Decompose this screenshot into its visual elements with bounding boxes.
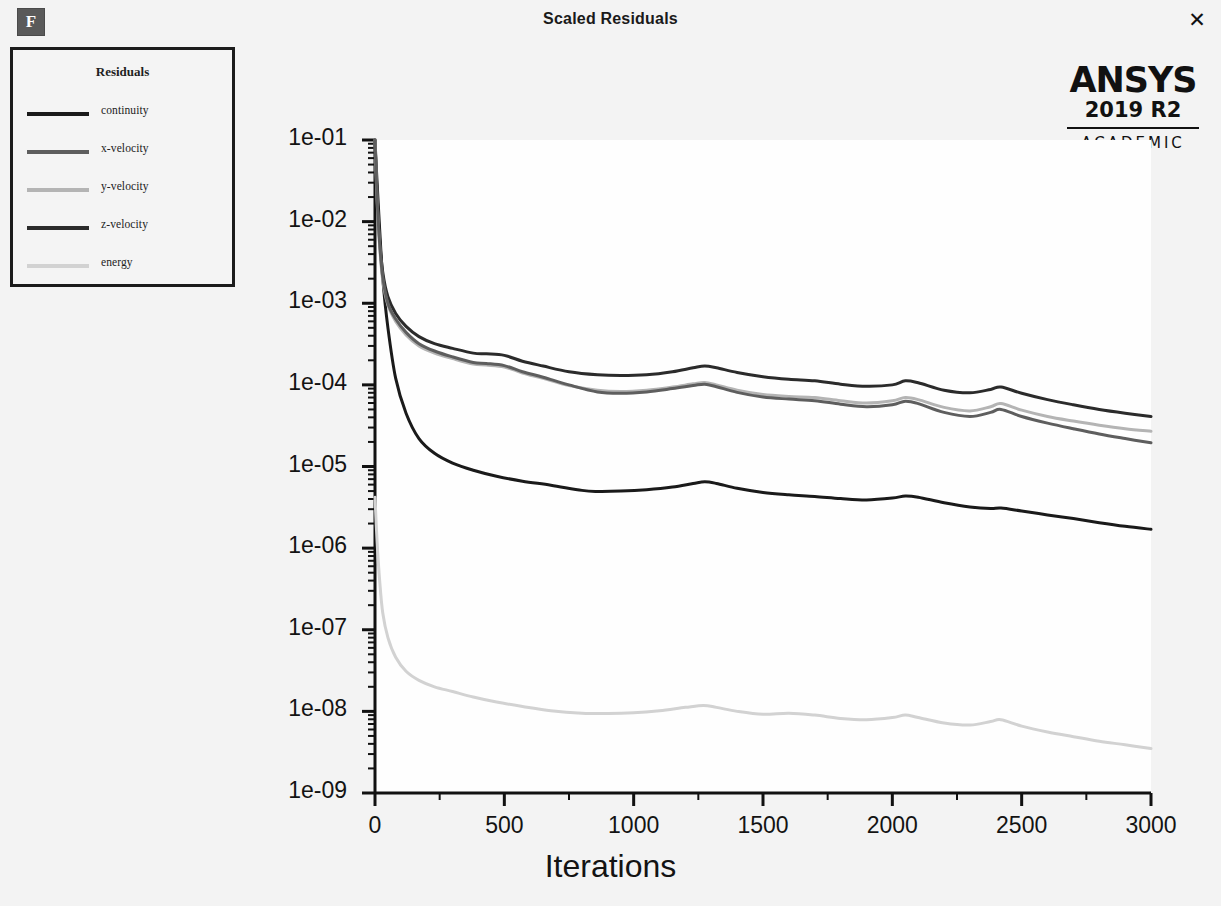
y-tick-label: 1e-02 bbox=[237, 206, 347, 233]
x-tick-label: 0 bbox=[330, 812, 420, 839]
y-tick-label: 1e-03 bbox=[237, 287, 347, 314]
y-tick-label: 1e-01 bbox=[237, 124, 347, 151]
x-tick-label: 2500 bbox=[977, 812, 1067, 839]
chart-canvas bbox=[0, 0, 1221, 906]
y-tick-label: 1e-08 bbox=[237, 695, 347, 722]
y-tick-label: 1e-05 bbox=[237, 451, 347, 478]
y-tick-label: 1e-09 bbox=[237, 777, 347, 804]
x-tick-label: 1000 bbox=[589, 812, 679, 839]
x-tick-label: 1500 bbox=[718, 812, 808, 839]
y-tick-label: 1e-06 bbox=[237, 532, 347, 559]
y-tick-label: 1e-07 bbox=[237, 614, 347, 641]
fluent-residuals-window: F Scaled Residuals ✕ Residuals continuit… bbox=[0, 0, 1221, 906]
x-axis-title: Iterations bbox=[0, 848, 1221, 885]
y-tick-label: 1e-04 bbox=[237, 369, 347, 396]
residuals-plot: 1e-011e-021e-031e-041e-051e-061e-071e-08… bbox=[0, 0, 1221, 906]
x-tick-label: 3000 bbox=[1106, 812, 1196, 839]
x-tick-label: 500 bbox=[459, 812, 549, 839]
x-tick-label: 2000 bbox=[847, 812, 937, 839]
